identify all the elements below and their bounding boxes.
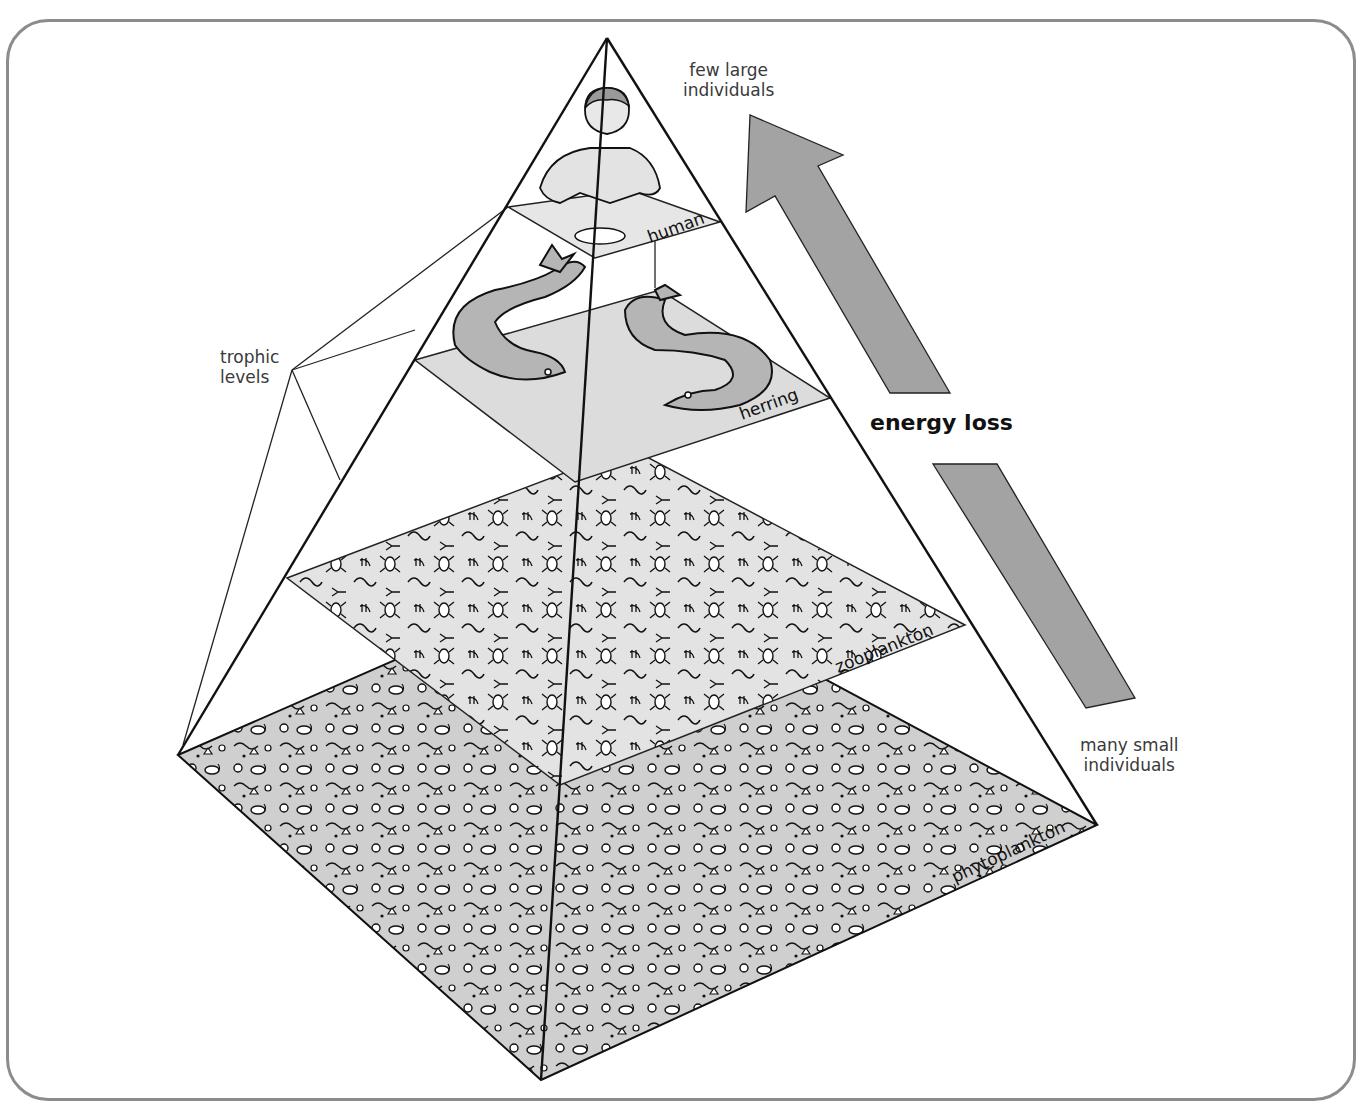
human-layer: human [508, 88, 720, 258]
pyramid-diagram: phytoplankton zooplankton herring human [0, 0, 1366, 1114]
many-small-individuals-label: many small individuals [1080, 735, 1179, 775]
energy-loss-label: energy loss [870, 410, 1013, 435]
herring-layer: herring [415, 245, 830, 482]
trophic-levels-label: trophic levels [220, 347, 279, 387]
few-large-individuals-label: few large individuals [683, 60, 774, 100]
